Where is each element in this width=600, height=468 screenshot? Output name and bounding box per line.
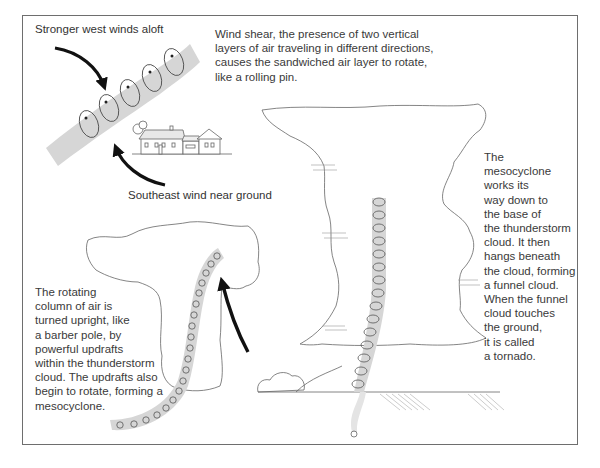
rain-streaks	[380, 394, 504, 410]
updraft-arrow	[222, 282, 248, 352]
upper-wind-arrow	[55, 48, 104, 86]
wind-shear-caption: Wind shear, the presence of two vertical…	[215, 27, 433, 84]
updraft-caption: The rotating column of air is turned upr…	[35, 285, 163, 413]
tornado-caption: The mesocyclone works its way down to th…	[484, 150, 575, 363]
lower-wind-label: Southeast wind near ground	[128, 188, 272, 202]
house-icon	[132, 121, 232, 154]
small-cumulus-cloud	[258, 373, 305, 392]
upper-wind-label: Stronger west winds aloft	[35, 22, 163, 36]
